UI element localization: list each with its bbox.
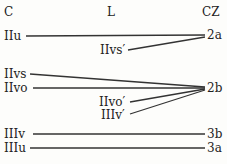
line-iivo-prime-2b (130, 89, 205, 102)
connection-lines (0, 0, 227, 164)
correspondence-diagram: C L CZ IIu IIvs IIvo IIIv IIIu IIvs′ IIv… (0, 0, 227, 164)
line-iiu-2a (26, 35, 205, 36)
line-iivs-2b (30, 74, 205, 87)
line-iiiv-prime-2b (130, 90, 205, 114)
line-iivs-prime-2a (128, 37, 205, 50)
